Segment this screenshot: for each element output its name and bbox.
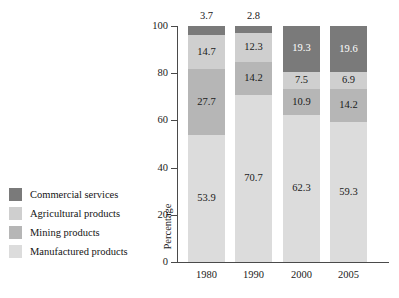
legend-swatch-icon	[9, 188, 22, 201]
bar-value-label: 70.7	[235, 173, 272, 184]
plot-area: 53.927.714.770.714.212.362.310.97.519.35…	[178, 26, 381, 262]
x-axis-line	[177, 262, 389, 263]
legend-item: Mining products	[9, 223, 159, 242]
bar-value-label: 19.6	[330, 44, 367, 55]
legend-item-label: Agricultural products	[30, 207, 120, 220]
bar-value-label: 27.7	[188, 97, 225, 108]
y-axis-tick-label: 0	[142, 257, 168, 268]
bar-segment	[188, 26, 225, 35]
bar-value-label: 6.9	[330, 75, 367, 86]
bar-value-label: 14.7	[188, 47, 225, 58]
legend-item: Commercial services	[9, 185, 159, 204]
y-axis-tick-label: 80	[142, 68, 168, 79]
x-axis-tick-label: 1990	[235, 269, 272, 280]
legend-item-label: Manufactured products	[30, 245, 128, 258]
legend-swatch-icon	[9, 226, 22, 239]
bar-2000: 62.310.97.519.3	[283, 26, 320, 262]
legend-item: Agricultural products	[9, 204, 159, 223]
bar-1990: 70.714.212.3	[235, 26, 272, 262]
bar-2005: 59.314.26.919.6	[330, 26, 367, 262]
bar-value-label: 7.5	[283, 75, 320, 86]
bar-value-label: 59.3	[330, 187, 367, 198]
x-axis-tick-label: 1980	[188, 269, 225, 280]
bar-value-label: 14.2	[235, 73, 272, 84]
y-axis-tick-label: 40	[142, 163, 168, 174]
y-axis-tick-label: 100	[142, 21, 168, 32]
bar-value-label: 10.9	[283, 97, 320, 108]
legend-item-label: Commercial services	[30, 188, 118, 201]
x-axis-tick-label: 2000	[283, 269, 320, 280]
y-axis-title-wrapper: Percentage	[128, 100, 142, 180]
bar-1980: 53.927.714.7	[188, 26, 225, 262]
y-axis-tick-labels: 020406080100	[142, 0, 168, 298]
bar-segment	[235, 26, 272, 33]
bar-value-label: 14.2	[330, 100, 367, 111]
bar-value-label-above: 2.8	[235, 10, 272, 21]
bar-value-label: 12.3	[235, 42, 272, 53]
bar-value-label: 53.9	[188, 193, 225, 204]
legend-swatch-icon	[9, 245, 22, 258]
x-axis-tick-label: 2005	[330, 269, 367, 280]
bar-value-label: 19.3	[283, 43, 320, 54]
stacked-bar-chart: Commercial services Agricultural product…	[0, 0, 399, 298]
legend-swatch-icon	[9, 207, 22, 220]
bar-value-label: 62.3	[283, 183, 320, 194]
chart-legend: Commercial services Agricultural product…	[9, 185, 159, 261]
bar-value-label-above: 3.7	[188, 10, 225, 21]
legend-item: Manufactured products	[9, 242, 159, 261]
y-axis-tick-label: 60	[142, 115, 168, 126]
y-axis-tick-label: 20	[142, 210, 168, 221]
legend-item-label: Mining products	[30, 226, 100, 239]
